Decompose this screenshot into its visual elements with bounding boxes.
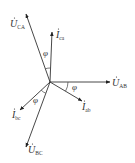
dot-i-ab	[84, 100, 85, 101]
dot-i-ca	[58, 28, 59, 29]
vector-i-ab	[50, 82, 82, 101]
vector-i-ca	[50, 32, 52, 82]
label-u-ab: UAB	[112, 77, 127, 89]
angle-label-ab: φ	[72, 82, 77, 92]
angle-arc-ab	[66, 82, 69, 91]
vector-u-bc	[26, 82, 50, 147]
angle-arc-ca	[45, 68, 50, 69]
dot-u-ab	[116, 76, 117, 77]
label-i-ca: Ica	[55, 29, 65, 41]
label-i-bc: Ibc	[11, 109, 21, 121]
dot-u-bc	[32, 143, 33, 144]
label-u-ca: UCA	[10, 18, 25, 30]
angle-label-ca: φ	[43, 48, 48, 58]
angle-arc-bc	[41, 90, 46, 93]
phasor-diagram: UCA Ica UAB Iab Ibc UBC φ φ φ	[0, 0, 135, 163]
dot-u-ca	[14, 17, 15, 18]
angle-label-bc: φ	[33, 95, 38, 105]
label-i-ab: Iab	[81, 101, 91, 113]
dot-i-bc	[14, 108, 15, 109]
label-u-bc: UBC	[28, 144, 43, 156]
